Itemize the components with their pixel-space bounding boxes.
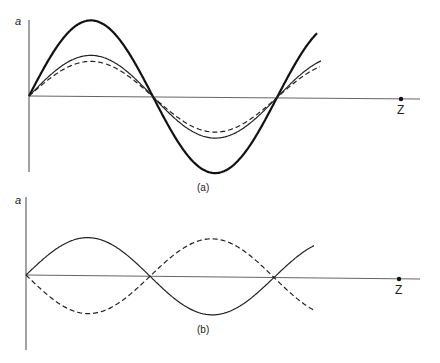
figure: a Z (a) a Z (b) [0, 0, 440, 363]
y-axis-label: a [15, 15, 21, 27]
x-axis-label: Z [395, 283, 402, 297]
panel-b: a Z (b) [15, 194, 420, 350]
z-point-marker [399, 97, 403, 101]
x-axis [26, 275, 420, 279]
x-axis [29, 96, 420, 99]
x-axis-label: Z [397, 103, 404, 117]
y-axis-label: a [15, 194, 21, 206]
panel-caption: (a) [197, 182, 209, 193]
panel-caption: (b) [197, 324, 209, 335]
panel-a: a Z (a) [15, 15, 420, 193]
z-point-marker [397, 277, 401, 281]
